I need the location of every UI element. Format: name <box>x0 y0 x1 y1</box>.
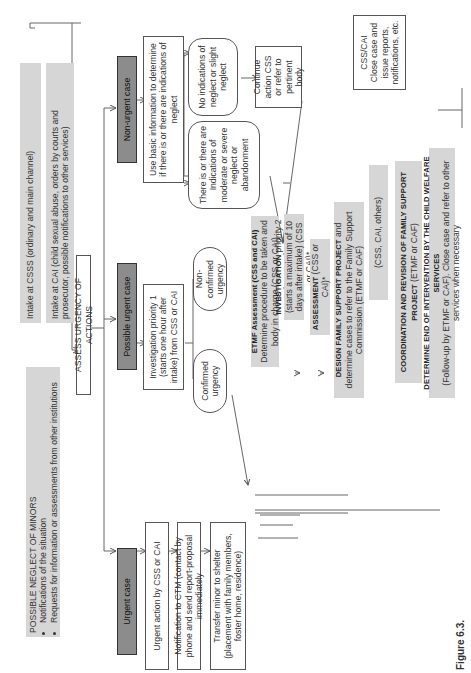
start-title: POSSIBLE NEGLECT OF MINORS <box>28 497 38 633</box>
assessment-text: ASSESSMENT (CSS or CAI)* <box>310 243 331 331</box>
urgent-action-box: Urgent action by CSS or CAI <box>145 522 169 670</box>
closure-box: CSS/CAI Close case and issue reports, no… <box>353 15 406 90</box>
possible-neglect-box: POSSIBLE NEGLECT OF MINORS Notifications… <box>26 367 60 637</box>
investigation-priority-1-text: Investigation priority 1 (starts one hou… <box>148 289 179 385</box>
end-title: DETERMINE END OF INTERVENTION BY THE CHI… <box>422 152 441 394</box>
indications-of-neglect-node: There is or there are Indications of mod… <box>188 121 260 209</box>
indications-of-neglect-text: There is or there are Indications of mod… <box>198 126 250 204</box>
end-body: (Follow-up by ETMF or CAF). Close case a… <box>441 152 462 394</box>
start-bullet: Notifications of the situation <box>38 382 48 623</box>
non-confirmed-urgency-text: Non-confirmed urgency <box>194 252 225 306</box>
coordination-revision-text: COORDINATION AND REVISION OF FAMILY SUPP… <box>398 165 419 379</box>
intake-cai-box: Intake at CAI (child sexual abuse, order… <box>46 63 74 323</box>
basic-information-text: Use basic information to determine if th… <box>148 41 179 178</box>
assess-urgency-box: ASSESS URGENCY OF ACTIONS <box>76 255 91 395</box>
intake-csss-box: Intake at CSSS (ordinary and main channe… <box>20 63 41 323</box>
transfer-minor-text: Transfer minor to shelter (placement wit… <box>212 527 243 665</box>
figure-caption: Figure 6.3. <box>455 620 466 670</box>
non-confirmed-urgency-node: Non-confirmed urgency <box>193 247 227 311</box>
urgent-case-label: Urgent case <box>122 578 132 624</box>
possible-urgent-case-label: Possible urgent case <box>122 277 132 357</box>
closure-body: Close case and issue reports, notificati… <box>369 20 400 85</box>
urgent-action-text: Urgent action by CSS or CAI <box>152 541 162 650</box>
confirmed-urgency-node: Confirmed urgency <box>193 349 227 413</box>
assessment-box: ASSESSMENT (CSS or CAI)* <box>310 239 330 335</box>
no-indications-node: No indications of neglect or slight negl… <box>188 38 238 116</box>
agencies-text: (CSS, CAI, others) <box>373 197 383 268</box>
notification-ctm-box: Notification to CTM (contact by phone an… <box>177 522 201 670</box>
investigation-priority-1-box: Investigation priority 1 (starts one hou… <box>143 284 184 390</box>
possible-urgent-case-header: Possible urgent case <box>117 263 137 370</box>
intake-cai-text: Intake at CAI (child sexual abuse, order… <box>50 67 71 319</box>
notification-ctm-text: Notification to CTM (contact by phone an… <box>173 527 204 665</box>
transfer-minor-box: Transfer minor to shelter (placement wit… <box>210 522 246 670</box>
basic-information-box: Use basic information to determine if th… <box>143 36 184 183</box>
continue-action-box: Continue action CSS or refer to pertinen… <box>255 46 302 108</box>
investigation-priority-2-box: INVESTIGATION priority 2 (starts a maxim… <box>284 214 304 320</box>
design-family-support-box: DESIGN FAMILY SUPPORT PROJECT and determ… <box>334 202 364 398</box>
confirmed-urgency-text: Confirmed urgency <box>200 354 221 408</box>
flowchart-canvas: POSSIBLE NEGLECT OF MINORS Notifications… <box>0 0 471 673</box>
non-urgent-case-header: Non-urgent case <box>117 56 137 163</box>
design-title: DESIGN FAMILY SUPPORT PROJECT <box>334 239 343 377</box>
design-family-support-text: DESIGN FAMILY SUPPORT PROJECT and determ… <box>333 206 364 394</box>
no-indications-text: No indications of neglect or slight negl… <box>197 43 228 111</box>
start-bullets: Notifications of the situation Requests … <box>38 382 59 633</box>
assessment-title: ASSESSMENT <box>311 277 320 330</box>
non-urgent-case-label: Non-urgent case <box>122 78 132 142</box>
closure-title: CSS/CAI <box>359 35 369 69</box>
assess-urgency-text: ASSESS URGENCY OF ACTIONS <box>73 260 94 390</box>
coordination-revision-box: COORDINATION AND REVISION OF FAMILY SUPP… <box>395 161 422 383</box>
etmf-title: ETMF Assessment (CSS and CAI) <box>250 230 259 354</box>
end-of-intervention-box: DETERMINE END OF INTERVENTION BY THE CHI… <box>429 148 455 398</box>
investigation-title: INVESTIGATION <box>274 255 283 315</box>
coordination-body: (ETMF or CAF) <box>409 223 419 282</box>
agencies-box: (CSS, CAI, others) <box>369 165 388 300</box>
intake-csss-text: Intake at CSSS (ordinary and main channe… <box>25 151 35 319</box>
start-bullet: Requests for information or assessments … <box>49 382 59 623</box>
continue-action-text: Continue action CSS or refer to pertinen… <box>252 51 304 103</box>
urgent-case-header: Urgent case <box>117 548 137 655</box>
